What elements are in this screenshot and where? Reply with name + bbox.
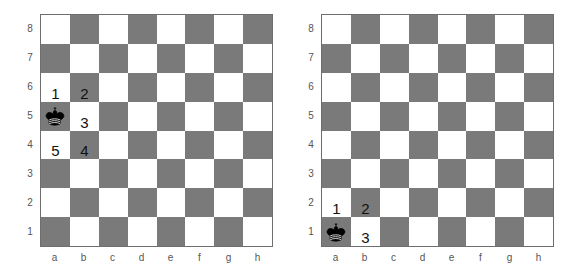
square-f2 — [185, 188, 214, 217]
rank-label: 5 — [305, 110, 317, 121]
square-d7 — [409, 44, 438, 73]
square-b5 — [351, 102, 380, 131]
square-h5 — [524, 102, 553, 131]
file-label: a — [40, 252, 69, 263]
square-c5 — [380, 102, 409, 131]
square-b2: 2 — [351, 188, 380, 217]
square-e8 — [157, 15, 186, 44]
rank-label: 6 — [24, 81, 36, 92]
rank-label: 4 — [305, 139, 317, 150]
square-e2 — [438, 188, 467, 217]
square-h2 — [524, 188, 553, 217]
black-king-icon — [41, 102, 70, 131]
square-a1 — [322, 217, 351, 246]
square-d1 — [409, 217, 438, 246]
square-f7 — [185, 44, 214, 73]
rank-label: 5 — [24, 110, 36, 121]
square-g2 — [214, 188, 243, 217]
rank-label: 2 — [24, 197, 36, 208]
file-label: h — [524, 252, 553, 263]
square-a6: 1 — [41, 73, 70, 102]
chessboard: 12354 — [40, 14, 273, 247]
square-a5 — [41, 102, 70, 131]
square-h8 — [524, 15, 553, 44]
square-f8 — [185, 15, 214, 44]
file-label: c — [379, 252, 408, 263]
square-c5 — [99, 102, 128, 131]
square-e2 — [157, 188, 186, 217]
square-b1 — [70, 217, 99, 246]
square-f8 — [466, 15, 495, 44]
move-marker: 5 — [41, 143, 70, 158]
square-a7 — [322, 44, 351, 73]
square-h1 — [524, 217, 553, 246]
file-label: b — [69, 252, 98, 263]
square-g1 — [495, 217, 524, 246]
file-label: f — [185, 252, 214, 263]
rank-label: 3 — [305, 168, 317, 179]
square-f1 — [185, 217, 214, 246]
square-d5 — [409, 102, 438, 131]
square-e4 — [438, 131, 467, 160]
square-h3 — [243, 159, 272, 188]
square-h7 — [524, 44, 553, 73]
square-h3 — [524, 159, 553, 188]
square-d2 — [409, 188, 438, 217]
square-g8 — [214, 15, 243, 44]
square-h5 — [243, 102, 272, 131]
square-a7 — [41, 44, 70, 73]
square-c7 — [99, 44, 128, 73]
square-b7 — [70, 44, 99, 73]
square-f3 — [466, 159, 495, 188]
square-d6 — [128, 73, 157, 102]
square-b8 — [351, 15, 380, 44]
square-e1 — [157, 217, 186, 246]
file-label: e — [437, 252, 466, 263]
square-b1: 3 — [351, 217, 380, 246]
square-c1 — [380, 217, 409, 246]
rank-label: 2 — [305, 197, 317, 208]
square-f6 — [466, 73, 495, 102]
rank-label: 8 — [24, 23, 36, 34]
square-b7 — [351, 44, 380, 73]
rank-label: 1 — [24, 226, 36, 237]
square-a2: 1 — [322, 188, 351, 217]
square-a3 — [322, 159, 351, 188]
rank-label: 3 — [24, 168, 36, 179]
square-d3 — [128, 159, 157, 188]
square-a2 — [41, 188, 70, 217]
square-f2 — [466, 188, 495, 217]
square-a6 — [322, 73, 351, 102]
file-label: a — [321, 252, 350, 263]
move-marker: 2 — [70, 86, 99, 101]
square-b6: 2 — [70, 73, 99, 102]
square-a5 — [322, 102, 351, 131]
square-b4 — [351, 131, 380, 160]
square-e7 — [438, 44, 467, 73]
square-c2 — [99, 188, 128, 217]
black-king-icon — [322, 217, 351, 246]
square-g5 — [495, 102, 524, 131]
square-g1 — [214, 217, 243, 246]
square-h6 — [243, 73, 272, 102]
square-a4 — [322, 131, 351, 160]
square-f5 — [185, 102, 214, 131]
square-c3 — [99, 159, 128, 188]
square-b8 — [70, 15, 99, 44]
square-b3 — [70, 159, 99, 188]
move-marker: 3 — [351, 230, 380, 245]
square-g6 — [214, 73, 243, 102]
square-e3 — [438, 159, 467, 188]
square-d2 — [128, 188, 157, 217]
chessboard: 123 — [321, 14, 554, 247]
square-a3 — [41, 159, 70, 188]
file-label: f — [466, 252, 495, 263]
square-h1 — [243, 217, 272, 246]
square-h2 — [243, 188, 272, 217]
file-label: b — [350, 252, 379, 263]
file-label: c — [98, 252, 127, 263]
square-e5 — [438, 102, 467, 131]
move-marker: 1 — [322, 201, 351, 216]
move-marker: 1 — [41, 86, 70, 101]
file-label: g — [214, 252, 243, 263]
